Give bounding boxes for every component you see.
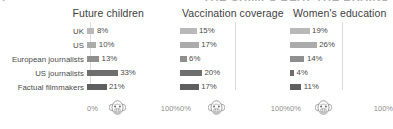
bar-value-label: 19% xyxy=(310,24,328,38)
bar-row: 11% xyxy=(290,80,393,94)
bar-row: 6% xyxy=(180,52,290,66)
bar xyxy=(180,84,199,90)
headline-text-fragment: THE CHIMPS BEAT THE BRAINS xyxy=(203,0,389,3)
row-label-factual-filmmakers: Factual filmmakers xyxy=(0,83,87,92)
bar-value-label: 13% xyxy=(99,52,117,66)
bar-track: 10% xyxy=(87,38,180,52)
plot-area: 15% 17% 6% 20% xyxy=(180,24,290,98)
plot-area: UK 8% US 10% European journalists 13% xyxy=(0,24,180,98)
headline-lead-fragment: I xyxy=(0,0,6,3)
axis-tick-max: 100% xyxy=(374,104,393,113)
bar-row: 20% xyxy=(180,66,290,80)
bar-track: 11% xyxy=(290,80,393,94)
chart-panel-future-children: Future children UK 8% US 10% European jo… xyxy=(0,6,180,121)
bar-row: 14% xyxy=(290,52,393,66)
chart-title: Vaccination coverage xyxy=(180,6,290,20)
bar-track: 4% xyxy=(290,66,393,80)
bar-value-label: 11% xyxy=(301,80,319,94)
bar-value-label: 14% xyxy=(304,52,322,66)
bar xyxy=(87,28,94,34)
bar-row: 17% xyxy=(180,80,290,94)
bar xyxy=(87,84,107,90)
bar-row: Factual filmmakers 21% xyxy=(0,80,180,94)
bar-track: 17% xyxy=(180,80,290,94)
bar-track: 17% xyxy=(180,38,290,52)
bar-value-label: 20% xyxy=(202,66,220,80)
axis-tick-min: 0% xyxy=(290,104,301,113)
bar-value-label: 8% xyxy=(94,24,108,38)
bar-track: 14% xyxy=(290,52,393,66)
chart-panel-group: Future children UK 8% US 10% European jo… xyxy=(0,6,393,129)
row-label-us-journalists: US journalists xyxy=(0,69,87,78)
bar-track: 13% xyxy=(87,52,180,66)
bar xyxy=(180,28,197,34)
bar-value-label: 4% xyxy=(294,66,308,80)
x-axis: 0% 100% xyxy=(180,99,290,121)
bar-value-label: 17% xyxy=(199,38,217,52)
clipped-headline: I THE CHIMPS BEAT THE BRAINS xyxy=(0,0,393,3)
bar-track: 19% xyxy=(290,24,393,38)
bar xyxy=(87,56,99,62)
axis-tick-min: 0% xyxy=(180,104,191,113)
bar-track: 15% xyxy=(180,24,290,38)
row-label-us: US xyxy=(0,41,87,50)
bar xyxy=(290,56,304,62)
row-label-european-journalists: European journalists xyxy=(0,55,87,64)
bar-row: 17% xyxy=(180,38,290,52)
axis-tick-min: 0% xyxy=(87,104,98,113)
bar-value-label: 21% xyxy=(107,80,125,94)
axis-tick-max: 100% xyxy=(271,104,290,113)
bar-row: 4% xyxy=(290,66,393,80)
bar-value-label: 17% xyxy=(199,80,217,94)
bar xyxy=(290,42,317,48)
bar xyxy=(87,42,96,48)
bar-track: 33% xyxy=(87,66,180,80)
bar-track: 20% xyxy=(180,66,290,80)
bar xyxy=(180,42,199,48)
axis-tick-max: 100% xyxy=(161,104,180,113)
bar-value-label: 10% xyxy=(96,38,114,52)
chart-panel-vaccination-coverage: Vaccination coverage 15% 17% 6% xyxy=(180,6,290,121)
plot-area: 19% 26% 14% 4% xyxy=(290,24,393,98)
bar-value-label: 6% xyxy=(187,52,201,66)
chimp-icon xyxy=(315,100,332,115)
bar-row: US journalists 33% xyxy=(0,66,180,80)
bar-track: 8% xyxy=(87,24,180,38)
bar xyxy=(290,28,310,34)
chart-panel-womens-education: Women's education 19% 26% 14% xyxy=(290,6,393,121)
chart-title: Women's education xyxy=(290,6,393,20)
x-axis: 0% 100% xyxy=(0,99,180,121)
bar-track: 6% xyxy=(180,52,290,66)
bar-value-label: 26% xyxy=(317,38,335,52)
chart-title: Future children xyxy=(0,6,180,20)
bar-row: 19% xyxy=(290,24,393,38)
bar-row: 15% xyxy=(180,24,290,38)
chimp-icon xyxy=(109,100,126,115)
bar-value-label: 15% xyxy=(197,24,215,38)
bar-row: 26% xyxy=(290,38,393,52)
bar-row: European journalists 13% xyxy=(0,52,180,66)
row-label-uk: UK xyxy=(0,27,87,36)
bar-track: 26% xyxy=(290,38,393,52)
bar-value-label: 33% xyxy=(118,66,136,80)
bar-row: US 10% xyxy=(0,38,180,52)
x-axis: 0% 100% xyxy=(290,99,393,121)
bar xyxy=(180,56,187,62)
bar xyxy=(180,70,202,76)
chimp-icon xyxy=(208,100,225,115)
bar-track: 21% xyxy=(87,80,180,94)
bar xyxy=(87,70,118,76)
bar-row: UK 8% xyxy=(0,24,180,38)
bar xyxy=(290,84,301,90)
